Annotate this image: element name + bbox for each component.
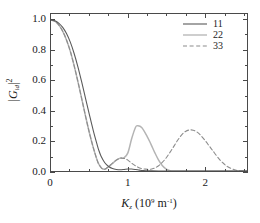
y-axis-subscript: id [13,85,21,90]
y-axis-bar-open: | [6,99,20,101]
y-tick-right [245,126,248,127]
y-tick-label: 0.2 [16,135,46,146]
x-tick-bottom [128,167,129,172]
x-tick-label: 0 [38,176,62,188]
legend-line-swatch [183,42,207,50]
y-tick-left [50,111,55,112]
x-tick-bottom [89,169,90,172]
y-axis-title: |Gid|2 [5,60,21,120]
legend-item-11: 11 [183,18,239,29]
y-tick-label: 0.0 [16,166,46,177]
legend-line-swatch [183,20,207,28]
x-tick-top [225,13,226,16]
figure-canvas: 0121.00.80.60.40.20.0 Kz (109 m-1) |Gid|… [0,0,260,223]
x-tick-label: 1 [116,176,140,188]
y-tick-left [50,19,55,20]
x-tick-top [69,13,70,16]
x-tick-top [50,13,51,18]
y-tick-left [50,34,53,35]
x-tick-top [128,13,129,18]
y-tick-right [245,34,248,35]
legend-item-22: 22 [183,29,239,40]
y-tick-left [50,157,53,158]
legend: 112233 [183,18,239,51]
x-tick-bottom [69,169,70,172]
x-tick-top [147,13,148,16]
y-axis-symbol: G [6,90,20,99]
y-tick-left [50,80,55,81]
y-tick-left [50,96,53,97]
x-axis-unit-open: (10 [132,196,151,210]
y-tick-left [50,50,55,51]
x-tick-top [108,13,109,16]
x-axis-unit-meter: m [155,196,167,210]
y-tick-label: 0.8 [16,44,46,55]
y-axis-exponent: 2 [5,79,14,83]
x-tick-bottom [147,169,148,172]
y-tick-right [243,19,248,20]
x-axis-unit-close: ) [173,196,177,210]
x-tick-bottom [186,169,187,172]
legend-item-33: 33 [183,40,239,51]
y-tick-right [243,111,248,112]
x-tick-top [166,13,167,16]
y-tick-right [243,172,248,173]
y-tick-label: 1.0 [16,13,46,24]
y-tick-left [50,141,55,142]
y-tick-right [243,80,248,81]
x-tick-bottom [205,167,206,172]
x-tick-bottom [108,169,109,172]
x-tick-top [89,13,90,16]
legend-label: 33 [213,41,223,51]
x-tick-top [186,13,187,16]
x-tick-bottom [225,169,226,172]
y-tick-left [50,126,53,127]
y-tick-left [50,65,53,66]
legend-label: 22 [213,30,223,40]
x-axis-title: Kz (109 m-1) [50,196,248,211]
legend-label: 11 [213,19,223,29]
legend-line-swatch [183,31,207,39]
y-tick-right [243,141,248,142]
x-tick-top [244,13,245,16]
x-tick-label: 2 [193,176,217,188]
y-tick-right [245,96,248,97]
x-tick-bottom [166,169,167,172]
y-tick-right [245,157,248,158]
y-tick-right [245,65,248,66]
y-tick-left [50,172,55,173]
y-tick-right [243,50,248,51]
